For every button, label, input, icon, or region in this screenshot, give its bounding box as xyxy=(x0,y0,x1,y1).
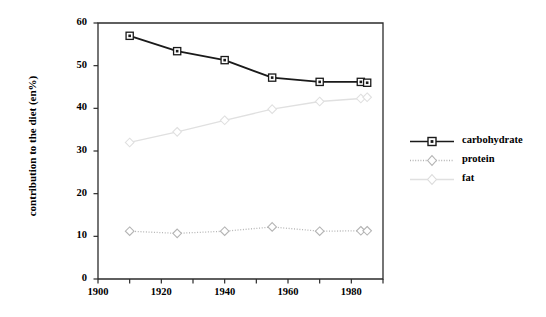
data-point-marker xyxy=(125,138,134,147)
legend-label-fat: fat xyxy=(462,172,474,183)
series-carbohydrate xyxy=(126,32,371,86)
data-point-marker xyxy=(315,227,324,236)
data-point-marker-core xyxy=(223,59,226,62)
y-tick-label: 20 xyxy=(61,187,87,198)
data-point-marker-core xyxy=(128,35,131,38)
y-tick-label: 30 xyxy=(61,144,87,155)
chart-figure: contribution to the diet (en%) 010203040… xyxy=(0,0,546,317)
data-point-marker-core xyxy=(271,76,274,79)
axes-frame xyxy=(98,23,383,279)
data-point-marker xyxy=(173,128,182,137)
chart-legend: carbohydrate protein fat xyxy=(408,132,546,189)
series-line-protein xyxy=(130,227,368,233)
series-line-fat xyxy=(130,97,368,142)
data-point-marker-core xyxy=(360,81,363,84)
legend-swatch-fat xyxy=(408,170,456,189)
data-point-marker xyxy=(125,227,134,236)
series-fat xyxy=(125,93,371,147)
series-line-carbohydrate xyxy=(130,36,368,83)
y-tick-label: 40 xyxy=(61,101,87,112)
data-point-marker xyxy=(363,226,372,235)
x-tick-label: 1940 xyxy=(205,286,245,297)
data-point-marker xyxy=(268,105,277,114)
legend-label-carbohydrate: carbohydrate xyxy=(462,134,523,145)
data-point-marker xyxy=(268,223,277,232)
legend-swatch-protein xyxy=(408,151,456,170)
data-point-marker-core xyxy=(366,81,369,84)
data-point-marker xyxy=(315,97,324,106)
legend-item-protein[interactable]: protein xyxy=(408,151,546,170)
y-tick-label: 10 xyxy=(61,229,87,240)
legend-item-fat[interactable]: fat xyxy=(408,170,546,189)
series-protein xyxy=(125,223,371,238)
data-point-marker-core xyxy=(176,50,179,53)
x-tick-label: 1980 xyxy=(331,286,371,297)
y-tick-label: 50 xyxy=(61,59,87,70)
x-tick-label: 1900 xyxy=(78,286,118,297)
y-tick-label: 60 xyxy=(61,16,87,27)
legend-item-carbohydrate[interactable]: carbohydrate xyxy=(408,132,546,151)
data-point-marker xyxy=(220,116,229,125)
legend-label-protein: protein xyxy=(462,153,494,164)
y-tick-label: 0 xyxy=(61,272,87,283)
x-tick-label: 1920 xyxy=(141,286,181,297)
data-point-marker xyxy=(220,227,229,236)
data-point-marker-core xyxy=(318,81,321,84)
data-point-marker xyxy=(173,229,182,238)
legend-swatch-carbohydrate xyxy=(408,132,456,151)
x-tick-label: 1960 xyxy=(268,286,308,297)
